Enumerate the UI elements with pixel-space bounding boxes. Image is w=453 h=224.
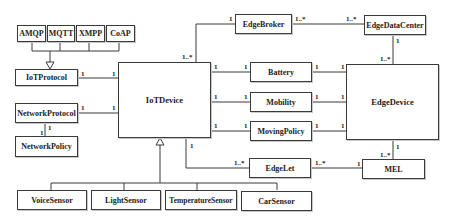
multiplicity-label: 1 [112,104,116,112]
multiplicity-label: 1 [48,124,52,132]
class-label: TemperatureSensor [169,196,232,205]
multiplicity-label: 1 [214,93,218,101]
multiplicity-label: 1 [112,70,116,78]
class-label: CoAP [110,29,130,38]
multiplicity-label: 1 [341,122,345,130]
multiplicity-label: 1..* [234,159,245,167]
class-edge-broker[interactable]: EdgeBroker [235,14,292,34]
class-label: MovingPolicy [257,127,304,136]
multiplicity-label: 1 [244,122,248,130]
multiplicity-label: 1 [341,63,345,71]
class-battery[interactable]: Battery [250,62,312,82]
multiplicity-label: 1 [214,63,218,71]
multiplicity-label: 1 [190,142,194,150]
multiplicity-label: 1 [244,93,248,101]
class-moving-policy[interactable]: MovingPolicy [250,121,312,141]
class-mqtt[interactable]: MQTT [47,25,75,42]
class-coap[interactable]: CoAP [106,25,135,42]
class-voice-sensor[interactable]: VoiceSensor [17,190,87,210]
multiplicity-label: 1 [214,122,218,130]
class-label: XMPP [79,29,102,38]
class-label: MEL [384,165,402,174]
class-mel[interactable]: MEL [362,159,425,179]
class-label: IoTDevice [146,95,183,105]
class-car-sensor[interactable]: CarSensor [241,191,312,211]
multiplicity-label: 1 [315,122,319,130]
multiplicity-label: 1..* [346,15,357,23]
class-network-protocol[interactable]: NetworkProtocol [15,103,78,123]
multiplicity-label: 1 [315,63,319,71]
class-iot-device[interactable]: IoTDevice [118,62,211,138]
class-label: AMQP [19,29,43,38]
class-amqp[interactable]: AMQP [17,25,46,42]
multiplicity-label: 1..* [295,15,306,23]
multiplicity-label: 1..* [182,53,193,61]
class-label: LightSensor [105,196,147,205]
class-light-sensor[interactable]: LightSensor [91,190,161,210]
class-network-policy[interactable]: NetworkPolicy [15,136,78,157]
class-label: EdgeDevice [371,97,414,107]
multiplicity-label: 1 [357,160,361,168]
class-label: Battery [268,68,294,77]
uml-diagram: AMQP MQTT XMPP CoAP IoTProtocol NetworkP… [0,0,453,224]
class-label: NetworkPolicy [21,142,72,151]
multiplicity-label: 1..* [380,151,391,159]
multiplicity-label: 1 [315,93,319,101]
class-label: Mobility [266,98,295,107]
class-label: VoiceSensor [31,196,72,205]
multiplicity-label: 1 [341,93,345,101]
multiplicity-label: 1 [40,129,44,137]
multiplicity-label: 1 [229,15,233,23]
class-edge-data-center[interactable]: EdgeDataCenter [364,15,426,35]
class-iot-protocol[interactable]: IoTProtocol [15,69,78,86]
class-mobility[interactable]: Mobility [250,92,312,112]
multiplicity-label: 1 [396,37,400,45]
class-edge-let[interactable]: EdgeLet [249,158,311,178]
multiplicity-label: 1 [81,104,85,112]
class-label: MQTT [49,29,73,38]
multiplicity-label: 1 [244,63,248,71]
class-label: CarSensor [258,197,294,206]
multiplicity-label: 1..* [380,55,391,63]
multiplicity-label: 1..* [315,159,326,167]
class-label: EdgeDataCenter [366,21,423,30]
class-label: EdgeLet [266,164,295,173]
class-edge-device[interactable]: EdgeDevice [346,64,439,140]
multiplicity-label: 1 [81,70,85,78]
multiplicity-label: 1 [396,143,400,151]
class-label: EdgeBroker [243,20,285,29]
class-label: NetworkProtocol [17,109,76,118]
class-label: IoTProtocol [26,73,67,82]
class-xmpp[interactable]: XMPP [76,25,105,42]
class-temperature-sensor[interactable]: TemperatureSensor [165,190,237,210]
